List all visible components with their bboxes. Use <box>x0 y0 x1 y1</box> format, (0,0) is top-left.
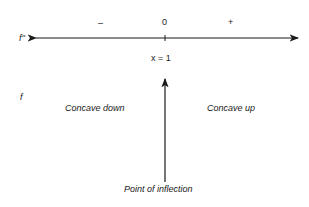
sign-zero: 0 <box>162 17 167 27</box>
concave-up-label: Concave up <box>207 103 255 113</box>
inflection-caption: Point of inflection <box>124 184 193 194</box>
row-label-second-derivative: f'' <box>19 33 25 43</box>
sign-positive: + <box>228 17 233 27</box>
row-label-function: f <box>20 92 23 102</box>
diagram-canvas <box>0 0 309 207</box>
critical-point-label: x = 1 <box>151 53 171 63</box>
sign-negative: – <box>98 18 103 28</box>
concave-down-label: Concave down <box>65 103 125 113</box>
